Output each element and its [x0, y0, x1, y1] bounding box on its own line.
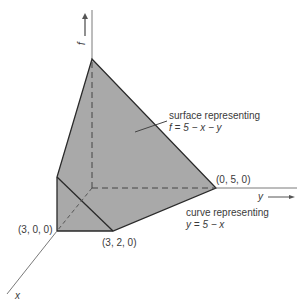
diagram-canvas	[0, 0, 307, 305]
curve-annotation-equation: y = 5 − x	[186, 219, 224, 230]
point-label-3-0-0: (3, 0, 0)	[18, 224, 52, 235]
up-arrow-icon	[82, 13, 88, 36]
f-axis-label: f	[76, 42, 87, 45]
surface-region	[57, 59, 216, 231]
y-axis-label: y	[258, 191, 263, 202]
x-axis	[7, 231, 57, 294]
x-axis-label: x	[15, 290, 20, 301]
curve-annotation-title: curve representing	[186, 207, 269, 218]
surface-annotation-equation: f = 5 − x − y	[169, 122, 222, 133]
point-label-3-2-0: (3, 2, 0)	[102, 237, 136, 248]
point-label-0-5-0: (0, 5, 0)	[216, 174, 250, 185]
right-arrow-icon	[268, 195, 295, 199]
surface-annotation-title: surface representing	[169, 110, 260, 121]
